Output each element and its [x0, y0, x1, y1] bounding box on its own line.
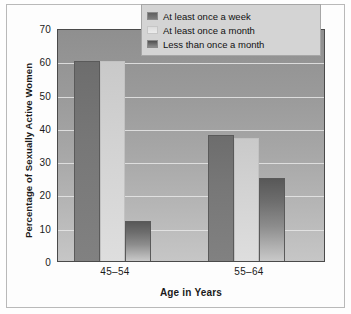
bar-45-54-at-least-once-a-week [74, 61, 100, 261]
legend-item-2: Less than once a month [147, 37, 314, 51]
y-tick-label-40: 40 [25, 123, 51, 134]
legend-swatch-icon-1 [147, 26, 158, 34]
x-tick-label-55-64: 55–64 [209, 266, 289, 277]
y-tick-label-30: 30 [25, 157, 51, 168]
bar-55-64-at-least-once-a-month [234, 138, 259, 261]
legend-swatch-icon-2 [147, 40, 158, 48]
x-axis-title: Age in Years [57, 287, 325, 298]
legend-label-1: At least once a month [163, 25, 255, 36]
y-tick-label-60: 60 [25, 57, 51, 68]
y-tick-label-70: 70 [25, 24, 51, 35]
y-tick-label-50: 50 [25, 90, 51, 101]
legend-label-0: At least once a week [163, 11, 251, 22]
bar-55-64-less-than-once-a-month [259, 178, 285, 261]
chart-legend: At least once a week At least once a mon… [141, 4, 321, 56]
legend-label-2: Less than once a month [163, 39, 264, 50]
legend-item-0: At least once a week [147, 9, 314, 23]
chart-figure: Percentage of Sexually Active Women 0 10… [0, 0, 351, 314]
y-tick-label-10: 10 [25, 223, 51, 234]
y-tick-label-20: 20 [25, 190, 51, 201]
legend-swatch-icon-0 [147, 12, 158, 20]
bar-45-54-less-than-once-a-month [125, 221, 151, 261]
x-tick-label-45-54: 45–54 [75, 266, 155, 277]
y-tick-label-0: 0 [25, 257, 51, 268]
plot-area [57, 29, 325, 262]
bar-55-64-at-least-once-a-week [208, 135, 234, 261]
legend-item-1: At least once a month [147, 23, 314, 37]
bar-45-54-at-least-once-a-month [100, 61, 125, 261]
